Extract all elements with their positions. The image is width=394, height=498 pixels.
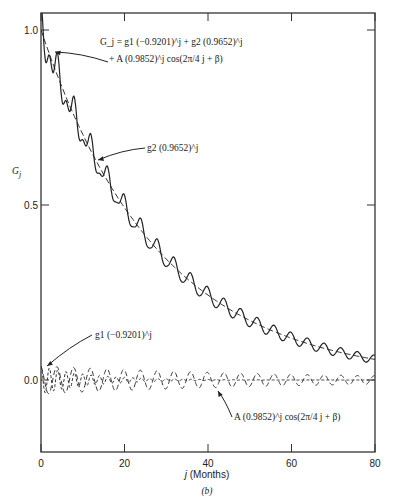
annotation-arrow-g2: [98, 148, 145, 160]
panel-label: (b): [201, 486, 212, 497]
series-g2-trend: [41, 30, 375, 359]
plot-frame: [41, 13, 375, 452]
annotation-arrow-g1: [47, 335, 92, 366]
x-tick-label: 20: [119, 458, 131, 469]
annotation-arrow-g2-head: [98, 156, 104, 161]
chart-canvas: 0204060800.00.51.0j (Months)Gj(b)G_j = g…: [0, 0, 394, 498]
x-tick-label: 0: [38, 458, 44, 469]
x-tick-label: 60: [286, 458, 298, 469]
annotation-gj-line2: + A (0.9852)^j cos(2π/4 j + β): [109, 54, 223, 65]
x-tick-label: 80: [369, 458, 381, 469]
series-g1-alternating: [41, 366, 375, 393]
x-axis-label: j (Months): [183, 469, 229, 480]
annotation-g2: g2 (0.9652)^j: [147, 143, 198, 154]
y-tick-label: 0.5: [24, 200, 38, 211]
y-tick-label: 1.0: [24, 25, 38, 36]
annotation-gj-line1: G_j = g1 (−0.9201)^j + g2 (0.9652)^j: [100, 37, 243, 48]
series-periodic-component: [41, 367, 375, 394]
annotation-arrow-gj: [55, 52, 108, 62]
x-tick-label: 40: [202, 458, 214, 469]
annotation-g1: g1 (−0.9201)^j: [95, 330, 152, 341]
annotation-periodic: A (0.9852)^j cos(2π/4 j + β): [234, 412, 341, 423]
y-axis-label: Gj: [12, 166, 22, 179]
y-tick-label: 0.0: [24, 375, 38, 386]
